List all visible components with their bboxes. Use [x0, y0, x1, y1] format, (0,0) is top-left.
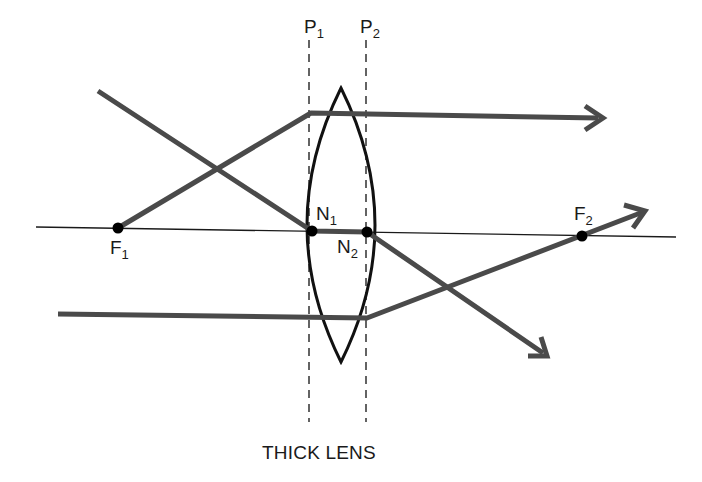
label-f1-base: F	[110, 237, 122, 258]
label-f2-base: F	[574, 203, 586, 224]
focal-point-f2	[577, 231, 588, 242]
figure-caption: THICK LENS	[262, 442, 376, 464]
nodal-point-n1	[307, 226, 318, 237]
label-n1: N1	[316, 204, 337, 227]
ray-parallel-to-focal	[58, 212, 643, 318]
label-f2: F2	[574, 204, 593, 227]
label-n2: N2	[337, 237, 358, 260]
label-p1-sub: 1	[317, 26, 324, 41]
nodal-point-n2	[362, 227, 373, 238]
label-p2-base: P	[360, 16, 373, 37]
label-f1-sub: 1	[122, 247, 129, 262]
label-n2-base: N	[337, 236, 351, 257]
label-p1-base: P	[304, 16, 317, 37]
label-n1-base: N	[316, 203, 330, 224]
label-p1: P1	[304, 17, 324, 40]
label-n2-sub: 2	[351, 246, 358, 261]
label-f1: F1	[110, 238, 129, 261]
label-f2-sub: 2	[586, 213, 593, 228]
label-p2-sub: 2	[373, 26, 380, 41]
focal-point-f1	[113, 223, 124, 234]
label-n1-sub: 1	[330, 213, 337, 228]
label-p2: P2	[360, 17, 380, 40]
